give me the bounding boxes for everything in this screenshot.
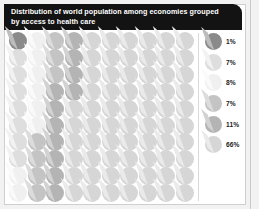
legend-item[interactable]: 11% bbox=[204, 116, 252, 134]
chart-header-bar: Distribution of world population among e… bbox=[4, 4, 242, 30]
legend-label: 7% bbox=[226, 100, 236, 107]
population-dot bbox=[46, 32, 64, 50]
legend-swatch bbox=[205, 74, 222, 91]
legend-divider bbox=[198, 33, 199, 201]
population-dot bbox=[102, 184, 120, 202]
population-dot bbox=[9, 184, 27, 202]
population-dot bbox=[176, 66, 194, 84]
population-dot bbox=[157, 32, 175, 50]
population-dot bbox=[176, 184, 194, 202]
population-dot bbox=[83, 133, 101, 151]
population-dot bbox=[120, 167, 138, 185]
legend-label: 66% bbox=[226, 141, 240, 148]
legend-swatch bbox=[205, 136, 222, 153]
chart-legend: 1%7%8%7%11%66% bbox=[204, 33, 252, 157]
legend-label: 1% bbox=[226, 38, 236, 45]
population-dot bbox=[120, 32, 138, 50]
population-dot bbox=[83, 32, 101, 50]
chart-screenshot: Distribution of world population among e… bbox=[0, 0, 259, 209]
legend-swatch-wedge bbox=[201, 131, 214, 154]
legend-item[interactable]: 66% bbox=[204, 136, 252, 154]
population-dot bbox=[9, 32, 27, 50]
population-dot bbox=[46, 184, 64, 202]
population-dot bbox=[176, 100, 194, 118]
legend-swatch-wedge bbox=[201, 27, 214, 50]
legend-label: 7% bbox=[226, 59, 236, 66]
population-dot bbox=[157, 150, 175, 168]
legend-swatch-wedge bbox=[201, 69, 214, 92]
legend-swatch bbox=[205, 54, 222, 71]
population-dot bbox=[157, 184, 175, 202]
legend-swatch-wedge bbox=[201, 89, 214, 112]
population-dot bbox=[65, 184, 83, 202]
population-dot bbox=[46, 133, 64, 151]
population-dot bbox=[120, 117, 138, 135]
legend-item[interactable]: 7% bbox=[204, 95, 252, 113]
population-dot bbox=[176, 150, 194, 168]
legend-swatch bbox=[205, 116, 222, 133]
population-dot bbox=[176, 49, 194, 67]
population-dot bbox=[176, 133, 194, 151]
right-edge-line bbox=[250, 0, 251, 209]
population-dot bbox=[83, 184, 101, 202]
population-dot bbox=[120, 150, 138, 168]
population-dot bbox=[139, 184, 157, 202]
population-dot bbox=[28, 184, 46, 202]
population-dot bbox=[46, 150, 64, 168]
legend-swatch bbox=[205, 95, 222, 112]
population-dot bbox=[46, 117, 64, 135]
population-dot bbox=[9, 133, 27, 151]
population-dot bbox=[83, 150, 101, 168]
legend-item[interactable]: 1% bbox=[204, 33, 252, 51]
population-dot bbox=[157, 167, 175, 185]
population-dot bbox=[9, 167, 27, 185]
dot-grid bbox=[9, 32, 192, 200]
legend-label: 8% bbox=[226, 79, 236, 86]
population-dot bbox=[157, 133, 175, 151]
legend-label: 11% bbox=[226, 121, 239, 128]
legend-swatch bbox=[205, 33, 222, 50]
legend-item[interactable]: 7% bbox=[204, 54, 252, 72]
legend-swatch-wedge bbox=[201, 48, 214, 71]
chart-body: 1%7%8%7%11%66% bbox=[5, 31, 245, 204]
population-dot bbox=[176, 32, 194, 50]
population-dot bbox=[157, 117, 175, 135]
population-dot bbox=[176, 167, 194, 185]
population-dot bbox=[120, 184, 138, 202]
population-dot bbox=[9, 150, 27, 168]
population-dot bbox=[83, 117, 101, 135]
population-dot bbox=[176, 83, 194, 101]
page-title: Distribution of world population among e… bbox=[11, 7, 232, 26]
population-dot bbox=[9, 117, 27, 135]
population-dot bbox=[46, 167, 64, 185]
population-dot bbox=[120, 133, 138, 151]
legend-item[interactable]: 8% bbox=[204, 74, 252, 92]
legend-swatch-wedge bbox=[201, 110, 214, 133]
population-dot bbox=[83, 167, 101, 185]
